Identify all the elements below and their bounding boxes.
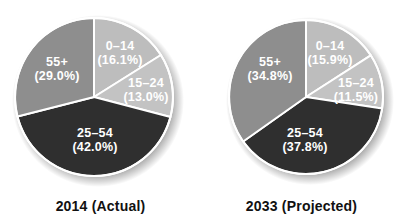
slice-label-25-54: 25–54 (42.0%)	[72, 126, 117, 154]
svg-text:(16.1%): (16.1%)	[97, 53, 142, 67]
svg-text:(11.5%): (11.5%)	[334, 90, 378, 104]
slice-label-15-24: 15–24 (11.5%)	[334, 76, 378, 104]
pie-chart-2033: 0–14 (15.9%) 15–24 (11.5%) 25–54 (37.8%)…	[201, 0, 402, 219]
svg-text:0–14: 0–14	[106, 39, 135, 53]
pie-chart-2014: 0–14 (16.1%) 15–24 (13.0%) 25–54 (42.0%)…	[0, 0, 201, 219]
svg-text:25–54: 25–54	[77, 126, 113, 140]
svg-text:15–24: 15–24	[128, 76, 164, 90]
svg-text:(37.8%): (37.8%)	[282, 140, 327, 154]
slice-label-15-24: 15–24 (13.0%)	[123, 76, 168, 104]
svg-text:15–24: 15–24	[338, 76, 374, 90]
svg-text:(13.0%): (13.0%)	[123, 90, 168, 104]
chart-title-2033: 2033 (Projected)	[201, 198, 402, 214]
svg-text:55+: 55+	[259, 55, 281, 69]
pie-2033-graphic: 0–14 (15.9%) 15–24 (11.5%) 25–54 (37.8%)…	[201, 0, 402, 219]
svg-text:55+: 55+	[46, 55, 68, 69]
svg-text:25–54: 25–54	[287, 126, 323, 140]
chart-title-2014: 2014 (Actual)	[0, 198, 201, 214]
svg-text:(42.0%): (42.0%)	[72, 140, 117, 154]
svg-text:0–14: 0–14	[316, 39, 345, 53]
svg-text:(15.9%): (15.9%)	[307, 53, 352, 67]
svg-text:(34.8%): (34.8%)	[247, 69, 292, 83]
pie-2014-graphic: 0–14 (16.1%) 15–24 (13.0%) 25–54 (42.0%)…	[0, 0, 201, 219]
slice-label-25-54: 25–54 (37.8%)	[282, 126, 327, 154]
svg-text:(29.0%): (29.0%)	[34, 69, 79, 83]
